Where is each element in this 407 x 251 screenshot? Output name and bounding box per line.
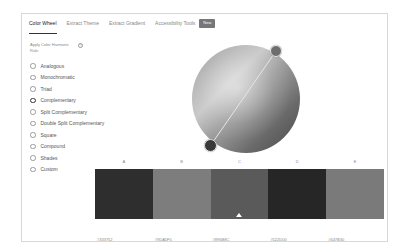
harmony-options: Analogous Monochromatic Triad Complement… xyxy=(30,60,104,175)
option-monochromatic[interactable]: Monochromatic xyxy=(30,72,104,84)
option-label: Split Complementary xyxy=(41,109,87,115)
help-icon[interactable]: ? xyxy=(78,43,83,48)
swatch-color-box[interactable] xyxy=(326,169,384,219)
radio-icon[interactable] xyxy=(30,63,36,69)
harmony-rule-label: Apply Color Harmonic Rule xyxy=(30,42,75,53)
option-label: Analogous xyxy=(41,63,65,69)
radio-icon[interactable] xyxy=(30,75,36,81)
tab-extract-gradient[interactable]: Extract Gradient xyxy=(109,14,145,32)
option-complementary[interactable]: Complementary xyxy=(30,95,104,107)
selected-marker-icon xyxy=(236,213,242,217)
swatch-letter: B xyxy=(153,159,211,169)
option-label: Double Split Complementary xyxy=(41,120,105,126)
option-label: Monochromatic xyxy=(41,74,75,80)
swatch-color-box[interactable] xyxy=(268,169,326,219)
option-double-split-complementary[interactable]: Double Split Complementary xyxy=(30,118,104,130)
swatch-a: A #333752 xyxy=(95,159,153,242)
radio-icon[interactable] xyxy=(30,86,36,92)
radio-icon[interactable] xyxy=(30,132,36,138)
color-wheel[interactable] xyxy=(192,45,300,153)
swatch-color-box[interactable] xyxy=(95,169,153,219)
radio-icon[interactable] xyxy=(30,121,36,127)
swatch-hex[interactable]: #522D00 xyxy=(268,237,326,242)
option-shades[interactable]: Shades xyxy=(30,152,104,164)
option-triad[interactable]: Triad xyxy=(30,83,104,95)
option-label: Compound xyxy=(41,143,65,149)
color-wheel-panel: Color Wheel Extract Theme Extract Gradie… xyxy=(21,13,388,242)
swatch-hex[interactable]: #896B8C xyxy=(211,237,269,242)
radio-icon[interactable] xyxy=(30,109,36,115)
swatch-b: B #9DA5F5 xyxy=(153,159,211,242)
radio-icon[interactable] xyxy=(30,144,36,150)
swatch-letter: D xyxy=(268,159,326,169)
option-custom[interactable]: Custom xyxy=(30,164,104,176)
option-split-complementary[interactable]: Split Complementary xyxy=(30,106,104,118)
swatch-letter: C xyxy=(211,159,269,169)
swatch-hex[interactable]: #333752 xyxy=(95,237,153,242)
swatch-c: C #896B8C xyxy=(211,159,269,242)
swatch-color-box[interactable] xyxy=(153,169,211,219)
radio-checked-icon[interactable] xyxy=(30,98,36,104)
tab-extract-theme[interactable]: Extract Theme xyxy=(67,14,99,32)
option-label: Shades xyxy=(41,155,58,161)
swatch-letter: E xyxy=(326,159,384,169)
option-square[interactable]: Square xyxy=(30,129,104,141)
option-compound[interactable]: Compound xyxy=(30,141,104,153)
swatch-d: D #522D00 xyxy=(268,159,326,242)
radio-icon[interactable] xyxy=(30,155,36,161)
new-badge: New xyxy=(199,19,215,28)
option-label: Triad xyxy=(41,86,52,92)
tab-accessibility-tools[interactable]: Accessibility Tools xyxy=(155,14,195,32)
swatch-hex[interactable]: #647B30 xyxy=(326,237,384,242)
tab-color-wheel[interactable]: Color Wheel xyxy=(29,14,57,32)
tab-bar: Color Wheel Extract Theme Extract Gradie… xyxy=(22,14,387,32)
option-label: Custom xyxy=(41,166,58,172)
harmony-line-icon xyxy=(192,45,300,153)
option-analogous[interactable]: Analogous xyxy=(30,60,104,72)
color-handle-complement[interactable] xyxy=(204,139,217,152)
swatch-color-box[interactable] xyxy=(211,169,269,219)
radio-icon[interactable] xyxy=(30,167,36,173)
swatch-letter: A xyxy=(95,159,153,169)
color-handle-primary[interactable] xyxy=(270,45,282,57)
swatch-hex[interactable]: #9DA5F5 xyxy=(153,237,211,242)
swatch-e: E #647B30 xyxy=(326,159,384,242)
option-label: Complementary xyxy=(41,97,76,103)
option-label: Square xyxy=(41,132,57,138)
